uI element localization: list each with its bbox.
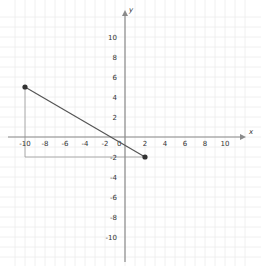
x-tick-label: -4 bbox=[82, 140, 90, 148]
x-tick-label: 2 bbox=[143, 140, 147, 148]
grid-lines bbox=[0, 0, 261, 266]
y-tick-label: 4 bbox=[113, 94, 118, 102]
y-tick-label: 8 bbox=[113, 54, 117, 62]
data-point bbox=[142, 154, 147, 159]
y-tick-label: 10 bbox=[108, 34, 117, 42]
y-tick-label: -6 bbox=[110, 194, 118, 202]
x-tick-label: 8 bbox=[203, 140, 207, 148]
x-tick-label: 6 bbox=[183, 140, 188, 148]
x-axis-label: x bbox=[248, 128, 254, 136]
x-tick-label: -2 bbox=[102, 140, 109, 148]
y-tick-label: -8 bbox=[110, 214, 117, 222]
coordinate-plane: x y 0 -10-8-6-4-2246810 108642-2-4-6-8-1… bbox=[0, 0, 261, 266]
x-tick-label: -10 bbox=[19, 140, 30, 148]
y-tick-label: -4 bbox=[110, 174, 118, 182]
y-tick-label: -2 bbox=[110, 154, 117, 162]
x-tick-label: -6 bbox=[62, 140, 70, 148]
y-tick-label: 6 bbox=[113, 74, 118, 82]
y-axis-label: y bbox=[128, 6, 134, 14]
y-tick-label: 2 bbox=[113, 114, 117, 122]
x-tick-label: -8 bbox=[42, 140, 49, 148]
x-tick-label: 4 bbox=[163, 140, 168, 148]
y-axis-arrow-icon bbox=[122, 10, 128, 16]
y-tick-label: -10 bbox=[106, 234, 117, 242]
x-tick-label: 10 bbox=[221, 140, 230, 148]
data-point bbox=[22, 84, 27, 89]
